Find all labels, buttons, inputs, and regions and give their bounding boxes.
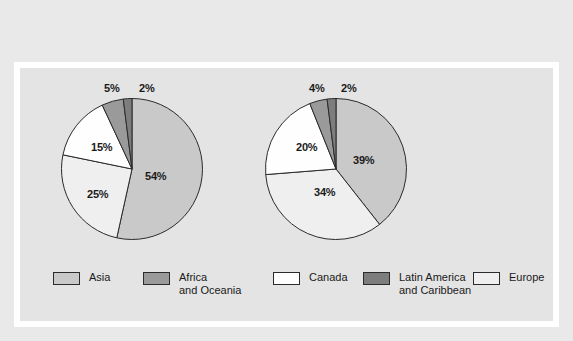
pie-2-label-africa: 4% [309, 82, 325, 94]
pie-1-slices [62, 98, 203, 239]
legend-item-europe[interactable]: Europe [473, 271, 544, 285]
pie-2-label-asia: 39% [353, 154, 374, 166]
legend-swatch-latin-america-and-caribbean [363, 272, 390, 285]
pie-1-label-asia: 54% [145, 170, 166, 182]
pie-2-slices [265, 99, 406, 240]
legend-swatch-africa-and-oceania [143, 272, 170, 285]
legend-label-europe: Europe [509, 271, 544, 284]
pie-1-label-latin: 2% [139, 82, 155, 94]
legend-swatch-europe [473, 272, 500, 285]
pie-chart-1: 2% 5% 15% 25% 54% [60, 97, 204, 241]
pie-1-label-africa: 5% [104, 82, 120, 94]
pie-1-svg [60, 97, 204, 241]
legend-item-africa-and-oceania[interactable]: Africa and Oceania [143, 271, 241, 297]
legend-label-canada: Canada [309, 271, 348, 284]
legend-item-latin-america-and-caribbean[interactable]: Latin America and Caribbean [363, 271, 471, 297]
pie-2-label-latin: 2% [341, 82, 357, 94]
legend-label-africa-and-oceania: Africa and Oceania [179, 271, 241, 297]
chart-panel: 2% 5% 15% 25% 54% 2% 4% 20% 34% 39% Asia [20, 68, 553, 321]
pie-2-svg [264, 97, 408, 241]
legend-item-canada[interactable]: Canada [273, 271, 348, 285]
pie-1-label-canada: 15% [91, 141, 112, 153]
pie-2-label-europe: 34% [314, 186, 335, 198]
figure-frame: 2% 5% 15% 25% 54% 2% 4% 20% 34% 39% Asia [14, 62, 559, 327]
legend-item-asia[interactable]: Asia [53, 271, 110, 285]
legend-label-latin-america-and-caribbean: Latin America and Caribbean [399, 271, 471, 297]
legend-label-asia: Asia [89, 271, 110, 284]
pie-chart-2: 2% 4% 20% 34% 39% [264, 97, 408, 241]
legend-swatch-asia [53, 272, 80, 285]
legend-swatch-canada [273, 272, 300, 285]
pie-2-label-canada: 20% [296, 141, 317, 153]
chart-legend: Asia Africa and Oceania Canada Latin Ame… [21, 265, 552, 325]
pie-1-label-europe: 25% [87, 188, 108, 200]
